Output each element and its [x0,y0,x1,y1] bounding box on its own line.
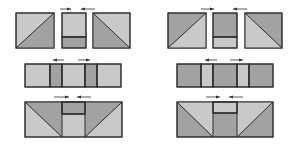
left-set-panel [16,7,130,137]
arrow-right-icon [230,58,243,61]
quilt-piece [177,64,201,87]
quilt-piece [213,13,237,37]
quilt-piece [213,64,237,87]
diagram-canvas [0,0,296,147]
quilt-piece [62,13,86,37]
quilt-piece [213,102,237,113]
arrow-right-icon [78,58,90,61]
quilt-piece [62,64,85,87]
quilt-diagram-figure [0,0,296,147]
quilt-piece [201,64,213,87]
quilt-piece [62,37,86,48]
quilt-piece [25,64,50,87]
quilt-piece [62,102,85,114]
arrow-left-icon [229,95,243,98]
left-set-row-3 [25,95,122,137]
left-set-row-1 [16,7,130,48]
arrow-left-icon [205,58,217,61]
quilt-piece [97,64,121,87]
right-set-row-3 [177,95,273,137]
quilt-piece [237,64,249,87]
arrow-left-icon [81,7,95,10]
quilt-piece [50,64,62,87]
right-set-panel [168,7,282,137]
arrow-right-icon [201,7,214,10]
quilt-piece [85,64,97,87]
right-set-row-2 [177,58,273,87]
arrow-left-icon [53,58,64,61]
quilt-piece [249,64,273,87]
right-set-row-1 [168,7,282,48]
arrow-left-icon [233,7,247,10]
arrow-right-icon [60,7,71,10]
quilt-piece [213,37,237,48]
arrow-right-icon [206,95,220,98]
arrow-right-icon [54,95,69,98]
left-set-row-2 [25,58,121,87]
arrow-left-icon [77,95,91,98]
